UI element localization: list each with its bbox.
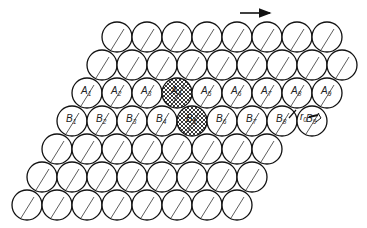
atom — [252, 134, 282, 164]
atom — [132, 22, 162, 52]
atom — [42, 190, 72, 220]
atom — [57, 162, 87, 192]
atom — [87, 50, 117, 80]
atom — [102, 134, 132, 164]
atom — [27, 162, 57, 192]
atom — [72, 190, 102, 220]
atom — [207, 50, 237, 80]
atom — [192, 190, 222, 220]
atom — [162, 134, 192, 164]
atom — [222, 190, 252, 220]
atom — [117, 50, 147, 80]
atom — [87, 162, 117, 192]
atom — [177, 162, 207, 192]
atom — [72, 134, 102, 164]
atom — [177, 50, 207, 80]
atom — [12, 190, 42, 220]
atom — [132, 190, 162, 220]
atom — [282, 22, 312, 52]
atom — [102, 22, 132, 52]
atom — [297, 50, 327, 80]
atom — [222, 22, 252, 52]
atom — [102, 190, 132, 220]
atom — [237, 162, 267, 192]
atom — [327, 50, 357, 80]
atom — [147, 162, 177, 192]
atom — [117, 162, 147, 192]
atom — [252, 22, 282, 52]
atom — [312, 22, 342, 52]
atom — [162, 190, 192, 220]
atom — [132, 134, 162, 164]
atom — [147, 50, 177, 80]
atom — [162, 22, 192, 52]
close-packed-atom-diagram: A1A2A3A4A5A6A7A8A9B1B2B3B4B5B6B7B8B9 r0 — [0, 0, 367, 228]
atom — [192, 22, 222, 52]
atom — [222, 134, 252, 164]
atom — [237, 50, 267, 80]
atom — [192, 134, 222, 164]
atom — [42, 134, 72, 164]
atom — [207, 162, 237, 192]
atom — [267, 50, 297, 80]
